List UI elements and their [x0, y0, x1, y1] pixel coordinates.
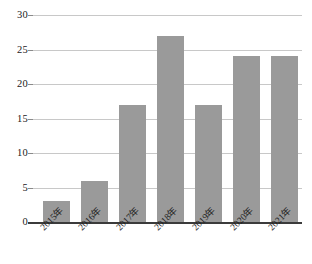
y-axis: 30 25 20 15 10 5 0: [0, 0, 28, 264]
y-tick-label: 10: [17, 148, 28, 159]
bars-group: [33, 15, 302, 222]
x-axis: 2015年 2016年 2017年 2018年 2019年 2020年 2021…: [33, 224, 302, 264]
y-tick-label: 15: [17, 114, 28, 125]
bar-2021[interactable]: [271, 56, 298, 222]
bar-2017[interactable]: [119, 105, 146, 222]
y-tick-label: 30: [17, 10, 28, 21]
bar-chart: 30 25 20 15 10 5 0 2015年 2016年 2017年 201…: [0, 0, 312, 264]
y-tick-label: 20: [17, 79, 28, 90]
bar-2019[interactable]: [195, 105, 222, 222]
bar-2018[interactable]: [157, 36, 184, 222]
y-tick-label: 25: [17, 45, 28, 56]
bar-2020[interactable]: [233, 56, 260, 222]
